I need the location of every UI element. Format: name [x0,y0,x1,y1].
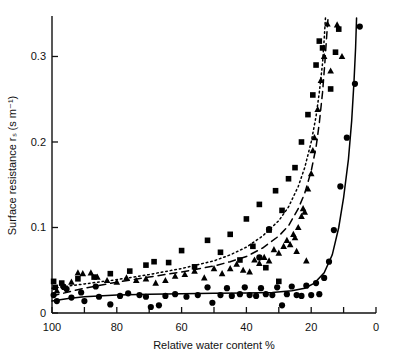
data-point-square [286,176,292,182]
data-point-square [244,216,250,222]
data-point-square [299,139,305,145]
data-point-square [127,268,133,274]
data-point-circle [93,283,99,289]
data-point-square [305,112,311,118]
data-point-circle [117,293,123,299]
data-point-circle [326,259,332,265]
data-point-circle [321,275,327,281]
data-point-circle [352,81,358,87]
data-point-triangle [227,265,234,271]
data-point-square [266,227,272,233]
data-point-square [227,232,233,238]
data-point-triangle [314,106,321,112]
data-point-triangle [246,268,253,274]
data-point-square [143,262,149,268]
x-tick-label: 80 [111,321,123,333]
data-point-circle [357,23,363,29]
data-point-square [336,26,342,32]
data-point-triangle [201,274,208,280]
data-point-triangle [280,243,287,249]
x-tick-label: 40 [240,321,252,333]
data-point-circle [258,285,264,291]
data-point-triangle [284,237,291,243]
data-point-square [273,188,279,194]
series-triangles [54,20,346,293]
data-point-triangle [256,260,263,266]
data-point-triangle [310,147,317,153]
data-point-circle [289,283,295,289]
y-axis-title: Surface resistance rₛ (s m⁻¹) [6,96,18,236]
data-point-circle [172,291,178,297]
data-point-square [328,86,334,92]
data-point-square [52,285,58,291]
data-point-square [263,265,269,271]
data-point-circle [313,280,319,286]
dashed-curve [52,18,328,296]
data-point-circle [156,302,162,308]
data-point-square [59,280,65,286]
data-point-square [313,62,319,68]
data-point-square [276,279,282,285]
data-point-triangle [271,246,278,252]
data-point-circle [274,284,280,290]
data-point-circle [229,293,235,299]
figure-container: 00.10.20.3100806040200Relative water con… [0,0,393,352]
data-point-circle [78,289,84,295]
data-point-circle [107,301,113,307]
data-point-circle [195,292,201,298]
data-point-square [75,276,81,282]
data-point-triangle [79,270,86,276]
data-point-triangle [327,67,334,73]
data-point-square [320,45,326,51]
data-point-circle [316,291,322,297]
data-point-circle [136,292,142,298]
x-axis-title: Relative water content % [153,339,275,351]
data-point-circle [247,292,253,298]
data-point-triangle [162,277,169,283]
data-point-circle [303,283,309,289]
data-point-square [237,257,243,263]
data-point-circle [143,294,149,300]
x-tick-label: 0 [373,321,379,333]
data-point-square [310,92,316,98]
data-point-square [292,165,298,171]
data-point-circle [337,183,343,189]
data-point-square [218,249,224,255]
data-point-triangle [219,270,226,276]
x-tick-label: 20 [305,321,317,333]
data-point-circle [148,304,154,310]
data-point-square [108,271,114,277]
data-point-triangle [266,257,273,263]
data-point-triangle [295,224,302,230]
data-point-circle [269,292,275,298]
data-point-circle [308,292,314,298]
data-point-circle [284,291,290,297]
data-point-triangle [321,53,328,59]
y-tick-label: 0 [40,307,46,319]
data-point-square [91,274,97,280]
data-point-triangle [339,53,346,59]
data-point-triangle [293,248,300,254]
data-point-circle [81,298,87,304]
data-point-circle [224,285,230,291]
data-point-circle [279,302,285,308]
x-tick-label: 100 [43,321,61,333]
data-point-circle [344,135,350,141]
data-point-triangle [275,250,282,256]
data-point-circle [125,290,131,296]
y-tick-label: 0.2 [31,136,46,148]
data-point-square [192,264,198,270]
data-point-circle [217,292,223,298]
data-point-triangle [308,170,315,176]
data-point-circle [331,227,337,233]
data-point-circle [242,284,248,290]
data-point-circle [68,295,74,301]
data-point-circle [298,293,304,299]
data-point-square [279,208,285,214]
data-point-square [205,238,211,244]
data-point-square [257,202,263,208]
scatter-plot: 00.10.20.3100806040200Relative water con… [0,0,393,352]
data-point-triangle [68,279,75,285]
data-point-circle [237,291,243,297]
data-point-circle [204,284,210,290]
